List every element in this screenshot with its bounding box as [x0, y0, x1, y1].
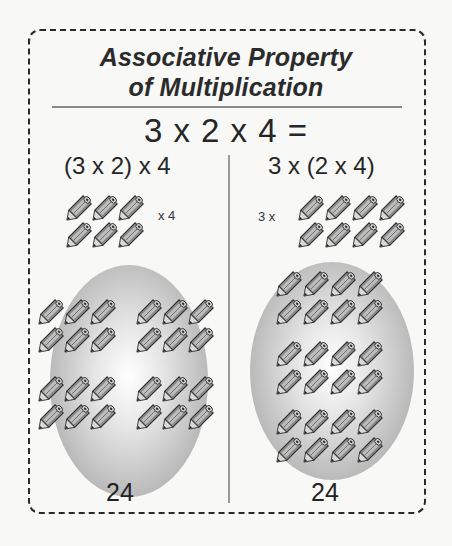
- pencil-icon: [118, 221, 145, 248]
- pencil-icon: [188, 403, 215, 430]
- pencil-icon: [303, 270, 330, 297]
- pencil-icon: [276, 408, 303, 435]
- pencil-icon: [118, 194, 145, 221]
- pencil-icon: [90, 403, 117, 430]
- pencil-icon: [303, 298, 330, 325]
- pencil-icon: [188, 298, 215, 325]
- title-line-1: Associative Property: [0, 43, 452, 72]
- pencil-icon: [357, 368, 384, 395]
- left-group-label: x 4: [158, 208, 175, 223]
- pencil-icon: [330, 298, 357, 325]
- pencil-icon: [38, 403, 65, 430]
- pencil-icon: [276, 436, 303, 463]
- pencil-icon: [379, 221, 406, 248]
- pencil-icon: [298, 221, 325, 248]
- pencil-icon: [136, 326, 163, 353]
- pencil-icon: [379, 194, 406, 221]
- pencil-icon: [330, 368, 357, 395]
- pencil-icon: [188, 326, 215, 353]
- right-result: 24: [311, 478, 339, 507]
- pencil-icon: [188, 375, 215, 402]
- pencil-icon: [357, 298, 384, 325]
- pencil-icon: [66, 194, 93, 221]
- left-result: 24: [106, 478, 134, 507]
- pencil-icon: [325, 221, 352, 248]
- pencil-icon: [352, 194, 379, 221]
- pencil-icon: [162, 403, 189, 430]
- pencil-icon: [298, 194, 325, 221]
- pencil-icon: [38, 326, 65, 353]
- pencil-icon: [330, 408, 357, 435]
- pencil-icon: [357, 408, 384, 435]
- equation: 3 x 2 x 4 =: [0, 112, 452, 150]
- pencil-icon: [276, 298, 303, 325]
- pencil-icon: [357, 270, 384, 297]
- pencil-icon: [92, 194, 119, 221]
- pencil-icon: [330, 436, 357, 463]
- pencil-icon: [303, 340, 330, 367]
- pencil-icon: [136, 375, 163, 402]
- pencil-icon: [92, 221, 119, 248]
- pencil-icon: [90, 326, 117, 353]
- pencil-icon: [162, 298, 189, 325]
- pencil-icon: [64, 326, 91, 353]
- pencil-icon: [64, 298, 91, 325]
- pencil-icon: [136, 298, 163, 325]
- pencil-icon: [303, 408, 330, 435]
- pencil-icon: [276, 270, 303, 297]
- pencil-icon: [90, 298, 117, 325]
- pencil-icon: [90, 375, 117, 402]
- pencil-icon: [357, 436, 384, 463]
- pencil-icon: [303, 436, 330, 463]
- pencil-icon: [162, 326, 189, 353]
- pencil-icon: [64, 403, 91, 430]
- pencil-icon: [330, 270, 357, 297]
- title-line-2: of Multiplication: [0, 73, 452, 102]
- pencil-icon: [66, 221, 93, 248]
- pencil-icon: [303, 368, 330, 395]
- pencil-icon: [38, 298, 65, 325]
- pencil-icon: [276, 340, 303, 367]
- right-expression: 3 x (2 x 4): [268, 152, 375, 180]
- pencil-icon: [38, 375, 65, 402]
- pencil-icon: [330, 340, 357, 367]
- column-divider: [228, 155, 230, 503]
- pencil-icon: [357, 340, 384, 367]
- pencil-icon: [352, 221, 379, 248]
- pencil-icon: [64, 375, 91, 402]
- pencil-icon: [276, 368, 303, 395]
- pencil-icon: [325, 194, 352, 221]
- pencil-icon: [162, 375, 189, 402]
- left-expression: (3 x 2) x 4: [64, 152, 171, 180]
- right-group-label: 3 x: [258, 209, 275, 224]
- pencil-icon: [136, 403, 163, 430]
- title-divider: [52, 106, 402, 108]
